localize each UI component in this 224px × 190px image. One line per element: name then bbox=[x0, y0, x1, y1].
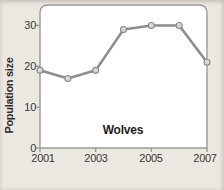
y-tick-label-30: 30 bbox=[8, 19, 36, 31]
wolves-population-chart-figure: Population size 30 20 10 0 2001 2003 200… bbox=[0, 0, 224, 190]
data-point bbox=[93, 67, 99, 73]
y-tick-label-20: 20 bbox=[8, 60, 36, 72]
data-point bbox=[37, 67, 43, 73]
y-tick-label-10: 10 bbox=[8, 101, 36, 113]
data-point bbox=[65, 76, 71, 82]
data-point bbox=[176, 22, 182, 28]
data-point bbox=[204, 59, 210, 65]
x-tick-label-2007: 2007 bbox=[187, 152, 223, 164]
data-point bbox=[121, 27, 127, 33]
x-tick-label-2003: 2003 bbox=[78, 152, 114, 164]
data-point bbox=[148, 22, 154, 28]
series-label-wolves: Wolves bbox=[83, 123, 163, 137]
x-tick-label-2001: 2001 bbox=[25, 152, 61, 164]
x-tick-label-2005: 2005 bbox=[133, 152, 169, 164]
